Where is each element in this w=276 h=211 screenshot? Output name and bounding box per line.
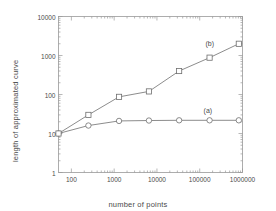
- series-a: [56, 118, 242, 137]
- y-tick-label: 10000: [37, 13, 55, 20]
- x-axis-title: number of points: [0, 200, 276, 209]
- axis-ticks: [59, 17, 243, 173]
- y-tick-label: 10: [48, 130, 55, 137]
- plot-frame: [59, 17, 243, 173]
- data-series-group: [56, 41, 242, 136]
- x-tick-label: 100: [66, 176, 77, 183]
- y-tick-label: 1: [52, 169, 56, 176]
- x-tick-label: 1000: [107, 176, 121, 183]
- y-tick-label: 1000: [41, 52, 55, 59]
- chart-figure: number of points length of approximated …: [0, 0, 276, 211]
- x-tick-label: 10000: [148, 176, 166, 183]
- x-tick-label: 100000: [189, 176, 211, 183]
- y-tick-label: 100: [45, 91, 56, 98]
- series-label-b: (b): [205, 40, 214, 47]
- series-label-a: (a): [204, 107, 213, 114]
- x-tick-label: 1000000: [230, 176, 255, 183]
- y-axis-title: length of approximated curve: [11, 60, 20, 162]
